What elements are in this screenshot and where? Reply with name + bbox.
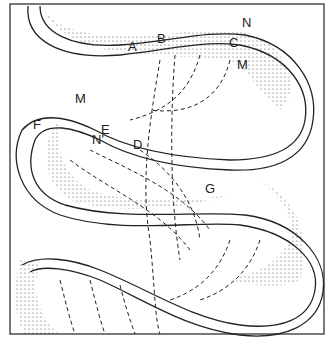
point-label-m2: M [75,92,86,105]
point-label-g: G [205,182,215,195]
point-label-a: A [128,40,137,53]
point-label-b: B [157,32,166,45]
point-label-d: D [133,138,142,151]
point-label-n1: N [242,16,251,29]
point-label-f: F [33,118,41,131]
point-label-n2: N' [92,133,104,146]
point-bar-bottom [15,260,60,334]
point-label-c: C [229,36,238,49]
river-meander-diagram [0,0,333,347]
point-label-m1: M [237,58,248,71]
point-bar-mid [46,120,230,209]
